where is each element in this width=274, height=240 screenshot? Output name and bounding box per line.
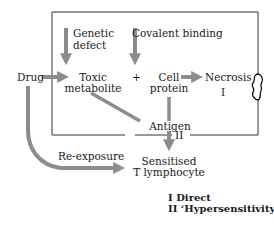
- pathway-ii-label: II: [175, 129, 183, 141]
- node-antigen: Antigen: [142, 120, 198, 132]
- metabolite-to-antigen-line: [91, 93, 140, 121]
- node-drug: Drug: [17, 71, 44, 83]
- node-toxic-metabolite-line2: metabolite: [64, 82, 122, 94]
- re-exposure-label: Re-exposure: [58, 150, 124, 162]
- node-sensitised-line2: T lymphocyte: [132, 166, 206, 178]
- plus-sign: +: [132, 71, 141, 83]
- legend-hypersensitivity: II ‘Hypersensitivity’: [168, 203, 274, 215]
- node-necrosis: Necrosis: [205, 71, 252, 83]
- node-genetic-defect-line2: defect: [73, 39, 106, 51]
- necrosis-squiggle-icon: [252, 74, 262, 100]
- pathway-i-label: I: [221, 86, 225, 98]
- node-cell-protein-line2: protein: [148, 82, 190, 94]
- node-covalent-binding: Covalent binding: [132, 27, 223, 39]
- node-genetic-defect-line1: Genetic: [73, 27, 114, 39]
